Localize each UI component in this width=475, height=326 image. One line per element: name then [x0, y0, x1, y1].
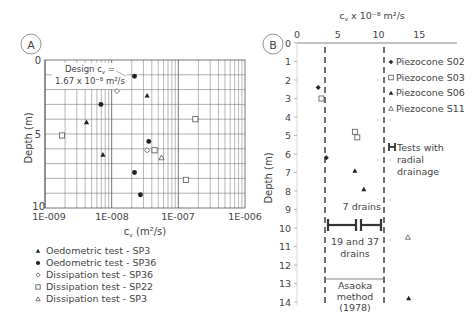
data-point: [132, 74, 137, 79]
label-19-37-drains-line2: drains: [340, 248, 369, 259]
data-point: [84, 120, 89, 125]
x-tick-b: 0: [294, 29, 300, 40]
design-cv-annotation-line1: Design cv =: [65, 64, 115, 75]
legend-radial-line2: radial: [397, 154, 424, 165]
y-tick-b: 11: [279, 241, 291, 252]
label-19-37-drains-line1: 19 and 37: [331, 236, 379, 247]
design-cv-annotation-line2: 1.67 x 10⁻⁸ m²/s: [55, 76, 125, 86]
legend-radial-line1: Tests with: [396, 142, 444, 153]
data-point: [316, 85, 321, 90]
legend-item-label: Piezocone S03: [396, 72, 465, 83]
legend-marker-icon: [36, 249, 40, 253]
y-tick-b: 5: [285, 130, 291, 141]
panel-b: B cv x 10⁻⁸ m²/s 05101501234567891011121…: [263, 10, 465, 313]
data-point: [352, 168, 357, 173]
x-tick-a-1e-9: 1E-009: [32, 211, 66, 222]
y-tick-b: 14: [279, 297, 291, 308]
y-tick-b: 6: [285, 149, 291, 160]
data-point: [152, 148, 157, 153]
y-tick-b: 0: [285, 38, 291, 49]
data-point: [405, 235, 410, 240]
x-tick-a-1e-8: 1E-008: [95, 211, 129, 222]
range-bar-19-37-drains: [328, 219, 356, 231]
legend-item-label: Piezocone S02: [396, 56, 465, 67]
data-point: [146, 139, 151, 144]
legend-marker-icon: [389, 60, 394, 65]
y-tick-b: 1: [285, 56, 291, 67]
legend-marker-icon: [389, 106, 394, 110]
x-tick-b: 10: [372, 29, 384, 40]
range-bar-7-drains: [361, 219, 381, 231]
panel-a-xlabel: cv (m²/s): [124, 226, 166, 238]
figure: A 0 5 10 Depth (m) 1E-009 1E-008 1E-007 …: [0, 0, 475, 326]
y-tick-b: 12: [279, 260, 291, 271]
y-tick-b: 9: [285, 204, 291, 215]
data-point: [144, 148, 149, 153]
legend-radial-drainage: [389, 143, 395, 151]
legend-item-label: Piezocone S11: [396, 103, 465, 114]
legend-marker-icon: [389, 91, 394, 95]
data-point: [319, 96, 324, 101]
data-point: [138, 192, 143, 197]
data-point: [406, 296, 411, 301]
x-tick-b: 15: [413, 29, 425, 40]
legend-marker-icon: [36, 273, 40, 277]
x-tick-a-1e-6: 1E-006: [228, 211, 262, 222]
panel-a-legend: Oedometric test - SP3Oedometric test - S…: [36, 245, 157, 304]
y-tick-b: 10: [279, 223, 291, 234]
label-7-drains: 7 drains: [343, 201, 381, 212]
legend-marker-icon: [36, 285, 40, 289]
y-tick-b: 3: [285, 93, 291, 104]
legend-marker-icon: [36, 261, 40, 265]
legend-item-label: Dissipation test - SP22: [46, 281, 153, 292]
panel-a-ylabel: Depth (m): [23, 112, 34, 163]
legend-marker-icon: [36, 297, 40, 301]
asaoka-label-line2: method: [337, 291, 374, 302]
data-point: [144, 93, 149, 98]
data-point: [352, 129, 357, 134]
legend-item-label: Dissipation test - SP3: [46, 293, 147, 304]
legend-item-label: Oedometric test - SP3: [46, 245, 150, 256]
panel-b-label: B: [269, 39, 277, 52]
panel-b-legend: Piezocone S02Piezocone S03Piezocone S06P…: [389, 56, 465, 114]
legend-item-label: Oedometric test - SP36: [46, 257, 156, 268]
y-tick-b: 7: [285, 167, 291, 178]
x-tick-b: 5: [335, 29, 341, 40]
y-tick-b: 4: [285, 112, 291, 123]
data-point: [59, 133, 64, 138]
y-tick-a-0: 0: [35, 55, 41, 66]
panel-a: A 0 5 10 Depth (m) 1E-009 1E-008 1E-007 …: [21, 34, 262, 304]
data-point: [355, 135, 360, 140]
panel-b-title: cv x 10⁻⁸ m²/s: [339, 10, 405, 22]
legend-radial-line3: drainage: [397, 166, 439, 177]
y-tick-b: 8: [285, 186, 291, 197]
data-point: [132, 170, 137, 175]
panel-b-ylabel: Depth (m): [263, 152, 274, 203]
asaoka-label-line1: Asaoka: [338, 280, 372, 291]
x-tick-a-1e-7: 1E-007: [161, 211, 195, 222]
legend-marker-icon: [389, 75, 394, 80]
y-tick-a-5: 5: [35, 129, 41, 140]
data-point: [193, 117, 198, 122]
data-point: [114, 88, 119, 93]
data-point: [98, 102, 103, 107]
legend-item-label: Piezocone S06: [396, 87, 465, 98]
data-point: [183, 177, 188, 182]
data-point: [361, 187, 366, 192]
panel-a-label: A: [27, 39, 35, 52]
y-tick-b: 2: [285, 75, 291, 86]
asaoka-label-line3: (1978): [339, 302, 371, 313]
legend-item-label: Dissipation test - SP36: [46, 269, 153, 280]
panel-b-points: [316, 85, 411, 300]
y-tick-b: 13: [279, 278, 291, 289]
